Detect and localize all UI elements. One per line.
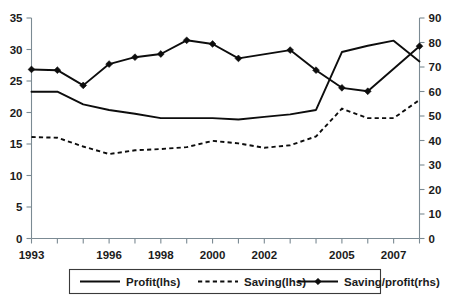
bottom-axis: 1993199619982000200220052007 bbox=[19, 239, 420, 261]
x-axis-ticks bbox=[32, 239, 420, 244]
right-tick-label: 90 bbox=[429, 12, 442, 24]
legend: Profit(lhs)Saving(lhs)Saving/profit(rhs) bbox=[70, 270, 441, 294]
right-tick-label: 40 bbox=[429, 135, 442, 147]
series-line-saving bbox=[32, 100, 420, 154]
right-tick-label: 10 bbox=[429, 208, 442, 220]
data-point-marker bbox=[132, 54, 139, 61]
x-tick-label: 1996 bbox=[96, 249, 122, 261]
left-axis-tick-labels: 05101520253035 bbox=[10, 12, 23, 245]
right-tick-label: 20 bbox=[429, 184, 442, 196]
left-tick-label: 10 bbox=[10, 170, 23, 182]
right-tick-label: 60 bbox=[429, 86, 442, 98]
legend-label: Saving/profit(rhs) bbox=[344, 276, 440, 288]
x-tick-label: 1998 bbox=[148, 249, 174, 261]
data-point-marker bbox=[157, 51, 164, 58]
left-tick-label: 30 bbox=[10, 44, 23, 56]
legend-label: Saving(lhs) bbox=[244, 276, 306, 288]
x-tick-label: 2002 bbox=[252, 249, 278, 261]
left-axis: 05101520253035 bbox=[10, 12, 32, 245]
left-axis-ticks bbox=[27, 18, 32, 239]
right-axis: 0102030405060708090 bbox=[420, 12, 442, 245]
right-tick-label: 0 bbox=[429, 233, 435, 245]
x-axis-tick-labels: 1993199619982000200220052007 bbox=[19, 249, 407, 261]
series-markers-saving-profit-ratio bbox=[28, 37, 423, 95]
x-tick-label: 2000 bbox=[200, 249, 226, 261]
data-point-marker bbox=[183, 37, 190, 44]
line-chart: 05101520253035 0102030405060708090 19931… bbox=[0, 0, 450, 299]
left-tick-label: 25 bbox=[10, 75, 23, 87]
right-axis-ticks bbox=[420, 18, 425, 239]
data-point-marker bbox=[28, 66, 35, 73]
right-tick-label: 70 bbox=[429, 61, 442, 73]
right-axis-tick-labels: 0102030405060708090 bbox=[429, 12, 442, 245]
left-tick-label: 15 bbox=[10, 138, 23, 150]
left-tick-label: 0 bbox=[16, 233, 22, 245]
chart-container: 05101520253035 0102030405060708090 19931… bbox=[0, 0, 450, 299]
left-tick-label: 35 bbox=[10, 12, 23, 24]
legend-items: Profit(lhs)Saving(lhs)Saving/profit(rhs) bbox=[80, 276, 440, 288]
left-tick-label: 5 bbox=[16, 201, 23, 213]
left-tick-label: 20 bbox=[10, 107, 23, 119]
right-tick-label: 30 bbox=[429, 159, 442, 171]
right-tick-label: 50 bbox=[429, 110, 442, 122]
x-tick-label: 2007 bbox=[381, 249, 407, 261]
right-tick-label: 80 bbox=[429, 37, 442, 49]
x-tick-label: 1993 bbox=[19, 249, 45, 261]
x-tick-label: 2005 bbox=[329, 249, 355, 261]
plot-series bbox=[28, 37, 423, 154]
legend-label: Profit(lhs) bbox=[126, 276, 180, 288]
